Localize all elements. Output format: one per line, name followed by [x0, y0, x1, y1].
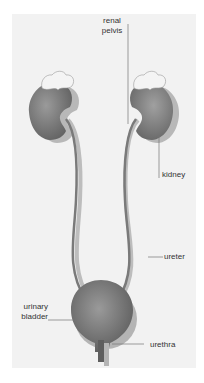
ureter-label: ureter — [164, 252, 185, 262]
urethra — [98, 340, 109, 366]
renal-pelvis-label: renal pelvis — [92, 16, 132, 36]
right-adrenal-gland — [134, 71, 166, 90]
left-adrenal-gland — [42, 71, 74, 90]
urinary-bladder-label-line1: urinary — [14, 302, 48, 312]
left-ureter — [66, 119, 90, 300]
kidney-label: kidney — [162, 170, 185, 180]
urinary-system-illustration — [0, 0, 204, 383]
renal-pelvis-label-line2: pelvis — [92, 26, 132, 36]
urinary-bladder-label: urinary bladder — [14, 302, 48, 322]
urethra-label: urethra — [150, 340, 175, 350]
urinary-bladder-label-line2: bladder — [14, 312, 48, 322]
right-ureter — [118, 119, 138, 300]
right-kidney — [130, 71, 179, 143]
renal-pelvis-label-line1: renal — [92, 16, 132, 26]
